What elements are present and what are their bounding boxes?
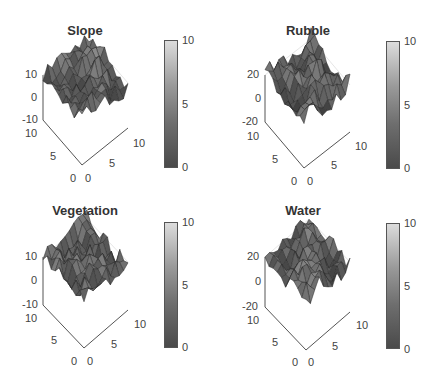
z-tick: -20 — [242, 115, 258, 127]
z-tick: -10 — [22, 113, 38, 125]
colorbar-tick: 5 — [182, 279, 188, 291]
colorbar-tick: 0 — [182, 161, 188, 173]
y-tick: 10 — [247, 314, 259, 326]
colorbar — [164, 222, 178, 348]
x-tick: 5 — [111, 338, 117, 350]
y-tick: 10 — [25, 127, 37, 139]
colorbar-tick: 5 — [182, 98, 188, 110]
colorbar — [164, 40, 178, 168]
colorbar — [386, 41, 400, 169]
y-tick: 10 — [25, 312, 37, 324]
subplot-slope: Slope 10 0 -10 10 5 0 0 5 10 10 5 0 — [0, 0, 218, 195]
x-tick: 10 — [355, 140, 367, 152]
surface-mesh — [43, 210, 128, 302]
x-tick: 0 — [85, 172, 91, 184]
x-tick: 5 — [109, 157, 115, 169]
x-tick: 10 — [356, 319, 368, 331]
subplot-title: Vegetation — [45, 203, 125, 218]
subplot-title: Water — [273, 203, 333, 218]
colorbar-tick: 0 — [404, 162, 410, 174]
z-tick: 20 — [247, 250, 259, 262]
x-tick: 5 — [332, 340, 338, 352]
x-tick: 5 — [331, 159, 337, 171]
z-tick: 0 — [255, 92, 261, 104]
x-tick: 0 — [308, 356, 314, 368]
subplot-title: Rubble — [278, 23, 338, 38]
z-tick: -20 — [242, 300, 258, 312]
y-tick: 5 — [51, 334, 57, 346]
colorbar-tick: 5 — [404, 280, 410, 292]
z-tick: 10 — [25, 68, 37, 80]
y-tick: 0 — [70, 172, 76, 184]
z-tick: 20 — [247, 68, 259, 80]
x-tick: 0 — [87, 355, 93, 367]
x-tick: 10 — [133, 137, 145, 149]
colorbar-tick: 5 — [404, 99, 410, 111]
y-tick: 0 — [291, 175, 297, 187]
subplot-title: Slope — [55, 23, 115, 38]
colorbar-tick: 0 — [404, 343, 410, 355]
z-tick: 0 — [31, 91, 37, 103]
z-tick: 0 — [31, 274, 37, 286]
y-tick: 5 — [272, 153, 278, 165]
z-tick: -10 — [22, 298, 38, 310]
subplot-water: Water 20 0 -20 10 5 0 0 5 10 10 5 0 — [218, 195, 437, 390]
colorbar — [386, 223, 400, 349]
x-tick: 10 — [134, 318, 146, 330]
surface-mesh — [43, 36, 128, 118]
surface-mesh — [265, 28, 350, 124]
colorbar-tick: 0 — [182, 341, 188, 353]
z-tick: 0 — [255, 275, 261, 287]
colorbar-tick: 10 — [404, 217, 416, 229]
subplot-vegetation: Vegetation 10 0 -10 10 5 0 0 5 10 10 5 0 — [0, 195, 218, 390]
colorbar-tick: 10 — [182, 216, 194, 228]
y-tick: 5 — [272, 336, 278, 348]
surface-mesh — [265, 219, 350, 303]
y-tick: 5 — [50, 150, 56, 162]
z-tick: 10 — [25, 250, 37, 262]
y-tick: 0 — [292, 356, 298, 368]
colorbar-tick: 10 — [182, 34, 194, 46]
x-tick: 0 — [307, 175, 313, 187]
y-tick: 0 — [71, 355, 77, 367]
y-tick: 10 — [247, 130, 259, 142]
subplot-rubble: Rubble 20 0 -20 10 5 0 0 5 10 10 5 0 — [218, 0, 437, 195]
colorbar-tick: 10 — [404, 35, 416, 47]
